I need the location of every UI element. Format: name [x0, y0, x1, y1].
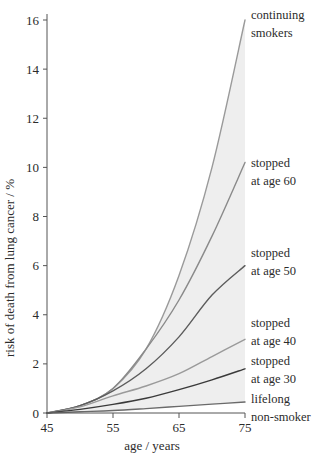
lung-cancer-risk-chart: 0246810121416 45556575 risk of death fro… [0, 0, 332, 460]
y-tick-label: 6 [33, 258, 40, 273]
label-stopped-50-line1: stopped [251, 246, 291, 260]
label-non-smoker-line2: non-smoker [251, 410, 312, 424]
y-tick-label: 12 [26, 111, 39, 126]
y-tick-label: 4 [33, 307, 40, 322]
y-tick-label: 8 [33, 209, 40, 224]
y-axis-ticks: 0246810121416 [26, 13, 47, 421]
label-continuing-smokers-line1: continuing [251, 8, 305, 22]
label-continuing-smokers-line2: smokers [251, 26, 293, 40]
label-stopped-60-line1: stopped [251, 156, 291, 170]
y-tick-label: 10 [26, 160, 39, 175]
x-axis-ticks: 45556575 [41, 413, 252, 435]
label-non-smoker-line1: lifelong [251, 392, 291, 406]
label-stopped-40-line2: at age 40 [251, 334, 296, 348]
y-tick-label: 14 [26, 62, 40, 77]
x-axis-title: age / years [124, 438, 180, 453]
y-tick-label: 0 [33, 406, 40, 421]
label-stopped-30-line1: stopped [251, 354, 291, 368]
y-tick-label: 2 [33, 356, 40, 371]
x-tick-label: 75 [239, 420, 252, 435]
series-annotations: continuing smokers stopped at age 60 sto… [251, 8, 312, 424]
label-stopped-50-line2: at age 50 [251, 264, 296, 278]
x-tick-label: 45 [41, 420, 54, 435]
label-stopped-30-line2: at age 30 [251, 372, 296, 386]
x-tick-label: 55 [107, 420, 120, 435]
x-tick-label: 65 [173, 420, 186, 435]
chart-svg: 0246810121416 45556575 risk of death fro… [0, 0, 332, 460]
label-stopped-60-line2: at age 60 [251, 174, 296, 188]
y-axis-title: risk of death from lung cancer / % [2, 179, 17, 357]
label-stopped-40-line1: stopped [251, 316, 291, 330]
y-tick-label: 16 [26, 13, 40, 28]
